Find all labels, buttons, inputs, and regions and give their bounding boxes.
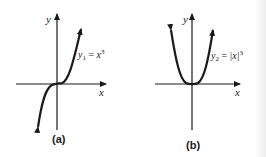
fn-equals-b: = [219, 50, 230, 61]
cubic-curve [38, 29, 81, 127]
page-edge-shade [254, 0, 266, 157]
x-axis-label-a: x [99, 87, 104, 98]
graphs-svg [0, 0, 266, 157]
panel-b [155, 14, 240, 130]
x-axis-label-b: x [235, 87, 240, 98]
fn-expr-b: |x| [230, 50, 240, 61]
figure: y x y1 = x3 (a) y x y2 = |x|3 (b) [0, 0, 266, 157]
panel-a [16, 14, 106, 130]
caption-a: (a) [52, 134, 65, 145]
function-label-b: y2 = |x|3 [211, 50, 243, 63]
y-axis-label-b: y [183, 14, 188, 25]
fn-equals-a: = [86, 49, 97, 60]
function-label-a: y1 = x3 [78, 49, 105, 62]
fn-power-b: 3 [240, 49, 244, 57]
y-axis-label-a: y [46, 14, 51, 25]
caption-b: (b) [186, 140, 200, 151]
fn-power-a: 3 [101, 48, 105, 56]
